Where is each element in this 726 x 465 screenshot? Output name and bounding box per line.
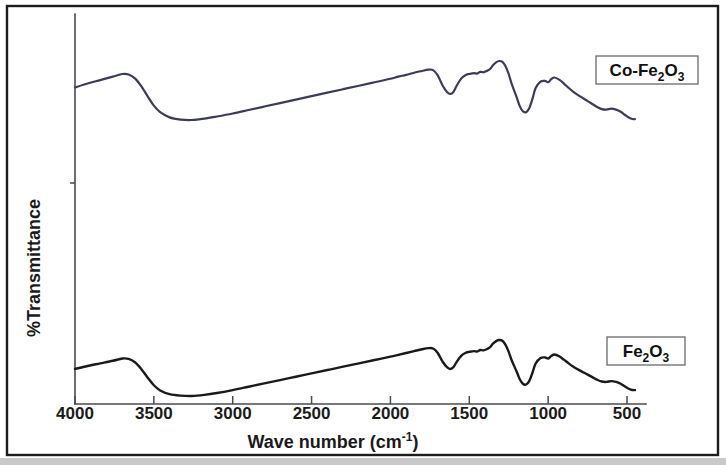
x-axis-title-close: ) [413,432,419,452]
x-tick-label-3000: 3000 [214,404,252,423]
scan-edge-strip [0,458,726,465]
ftir-spectrum-figure: 4000350030002500200015001000500 %Transmi… [0,0,726,465]
legend-upper-pre: Co-Fe [610,61,658,80]
x-tick-label-1500: 1500 [450,404,488,423]
x-tick-label-500: 500 [613,404,641,423]
legend-label-fe2o3: Fe2O3 [607,337,685,365]
x-tick-label-1000: 1000 [529,404,567,423]
x-tick-label-2000: 2000 [372,404,410,423]
y-axis-title: %Transmittance [24,199,44,337]
legend-label-co-fe2o3: Co-Fe2O3 [596,56,698,84]
x-tick-label-4000: 4000 [56,404,94,423]
legend-lower-mid: O [649,342,662,361]
legend-lower-sub2: 3 [663,351,670,365]
x-axis-title-exponent: -1 [402,430,413,444]
x-tick-label-3500: 3500 [135,404,173,423]
x-axis-title: Wave number (cm-1) [247,430,418,452]
legend-upper-mid: O [664,61,677,80]
legend-upper-sub2: 3 [678,70,685,84]
x-axis-title-main: Wave number (cm [247,432,401,452]
legend-lower-pre: Fe [623,342,643,361]
x-tick-label-2500: 2500 [293,404,331,423]
